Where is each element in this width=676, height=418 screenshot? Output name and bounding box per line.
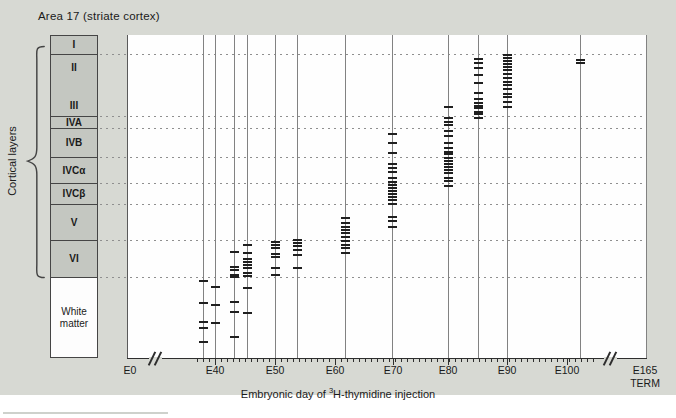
layer-boundary-dotted-line: [100, 183, 647, 184]
x-axis-minor-tick: [587, 359, 588, 362]
labeled-cell-tick: [243, 275, 252, 277]
labeled-cell-tick: [503, 57, 512, 59]
layer-box-vi: VI: [50, 240, 98, 278]
layer-label: VI: [69, 253, 78, 265]
x-axis-minor-tick: [401, 359, 402, 362]
labeled-cell-tick: [474, 92, 483, 94]
x-axis-minor-tick: [485, 359, 486, 362]
labeled-cell-tick: [341, 232, 350, 234]
x-axis-minor-tick: [233, 359, 234, 362]
labeled-cell-tick: [444, 142, 453, 144]
x-tick-label-E165: E165TERM: [623, 364, 667, 389]
labeled-cell-tick: [271, 244, 280, 246]
figure-title: Area 17 (striate cortex): [38, 10, 160, 22]
labeled-cell-tick: [293, 267, 302, 269]
labeled-cell-tick: [199, 302, 208, 304]
x-axis-minor-tick: [581, 359, 582, 362]
x-axis-minor-tick: [467, 359, 468, 362]
labeled-cell-tick: [293, 242, 302, 244]
x-axis-minor-tick: [479, 359, 480, 362]
x-axis-minor-tick: [473, 359, 474, 362]
x-axis-minor-tick: [377, 359, 378, 362]
labeled-cell-tick: [243, 261, 252, 263]
labeled-cell-tick: [503, 106, 512, 108]
labeled-cell-tick: [388, 171, 397, 173]
labeled-cell-tick: [230, 301, 239, 303]
labeled-cell-tick: [444, 169, 453, 171]
x-axis-minor-tick: [455, 359, 456, 362]
layer-boundary-dotted-line: [100, 116, 647, 117]
x-axis-minor-tick: [389, 359, 390, 362]
x-axis-minor-tick: [269, 359, 270, 362]
x-axis-minor-tick: [305, 359, 306, 362]
x-axis-minor-tick: [575, 359, 576, 362]
labeled-cell-tick: [503, 54, 512, 56]
labeled-cell-tick: [388, 193, 397, 195]
x-axis-minor-tick: [521, 359, 522, 362]
labeled-cell-tick: [230, 266, 239, 268]
labeled-cell-tick: [444, 180, 453, 182]
labeled-cell-tick: [243, 264, 252, 266]
x-axis-minor-tick: [221, 359, 222, 362]
x-axis-minor-tick: [437, 359, 438, 362]
labeled-cell-tick: [474, 82, 483, 84]
layer-box-ivcα: IVCα: [50, 157, 98, 184]
labeled-cell-tick: [388, 184, 397, 186]
labeled-cell-tick: [388, 177, 397, 179]
injection-day-line-E45: [247, 35, 248, 358]
x-axis-minor-tick: [281, 359, 282, 362]
labeled-cell-tick: [444, 106, 453, 108]
labeled-cell-tick: [474, 113, 483, 115]
labeled-cell-tick: [243, 267, 252, 269]
labeled-cell-tick: [444, 117, 453, 119]
labeled-cell-tick: [388, 196, 397, 198]
labeled-cell-tick: [444, 130, 453, 132]
labeled-cell-tick: [341, 229, 350, 231]
labeled-cell-tick: [199, 327, 208, 329]
labeled-cell-tick: [341, 247, 350, 249]
labeled-cell-tick: [388, 226, 397, 228]
labeled-cell-tick: [503, 77, 512, 79]
labeled-cell-tick: [293, 249, 302, 251]
labeled-cell-tick: [474, 62, 483, 64]
layer-box-ivb: IVB: [50, 128, 98, 158]
labeled-cell-tick: [503, 60, 512, 62]
x-axis-minor-tick: [419, 359, 420, 362]
layer-box-i: I: [50, 35, 98, 55]
labeled-cell-tick: [230, 269, 239, 271]
labeled-cell-tick: [341, 226, 350, 228]
labeled-cell-tick: [444, 163, 453, 165]
labeled-cell-tick: [211, 286, 220, 288]
x-axis-minor-tick: [533, 359, 534, 362]
labeled-cell-tick: [444, 121, 453, 123]
layer-boundary-dotted-line: [100, 54, 647, 55]
x-axis-minor-tick: [371, 359, 372, 362]
injection-day-line-E43: [234, 35, 235, 358]
x-axis-minor-tick: [413, 359, 414, 362]
birthdating-figure: Area 17 (striate cortex) Cortical layers…: [0, 0, 676, 418]
labeled-cell-tick: [271, 241, 280, 243]
x-axis-minor-tick: [563, 359, 564, 362]
x-axis-minor-tick: [209, 359, 210, 362]
labeled-cell-tick: [503, 96, 512, 98]
labeled-cell-tick: [444, 160, 453, 162]
x-axis-minor-tick: [539, 359, 540, 362]
layer-label: IVCα: [63, 165, 86, 177]
labeled-cell-tick: [230, 336, 239, 338]
x-axis-minor-tick: [227, 359, 228, 362]
labeled-cell-tick: [474, 67, 483, 69]
x-axis-minor-tick: [299, 359, 300, 362]
layer-box-v: V: [50, 204, 98, 241]
layer-label: V: [71, 217, 78, 229]
layer-boundary-dotted-line: [100, 128, 647, 129]
x-axis-minor-tick: [317, 359, 318, 362]
labeled-cell-tick: [576, 62, 585, 64]
labeled-cell-tick: [271, 267, 280, 269]
layer-boundary-dotted-line: [100, 157, 647, 158]
labeled-cell-tick: [341, 240, 350, 242]
labeled-cell-tick: [388, 203, 397, 205]
labeled-cell-tick: [474, 117, 483, 119]
layer-label: III: [70, 100, 78, 112]
plot-left-border: [127, 35, 128, 358]
labeled-cell-tick: [503, 101, 512, 103]
